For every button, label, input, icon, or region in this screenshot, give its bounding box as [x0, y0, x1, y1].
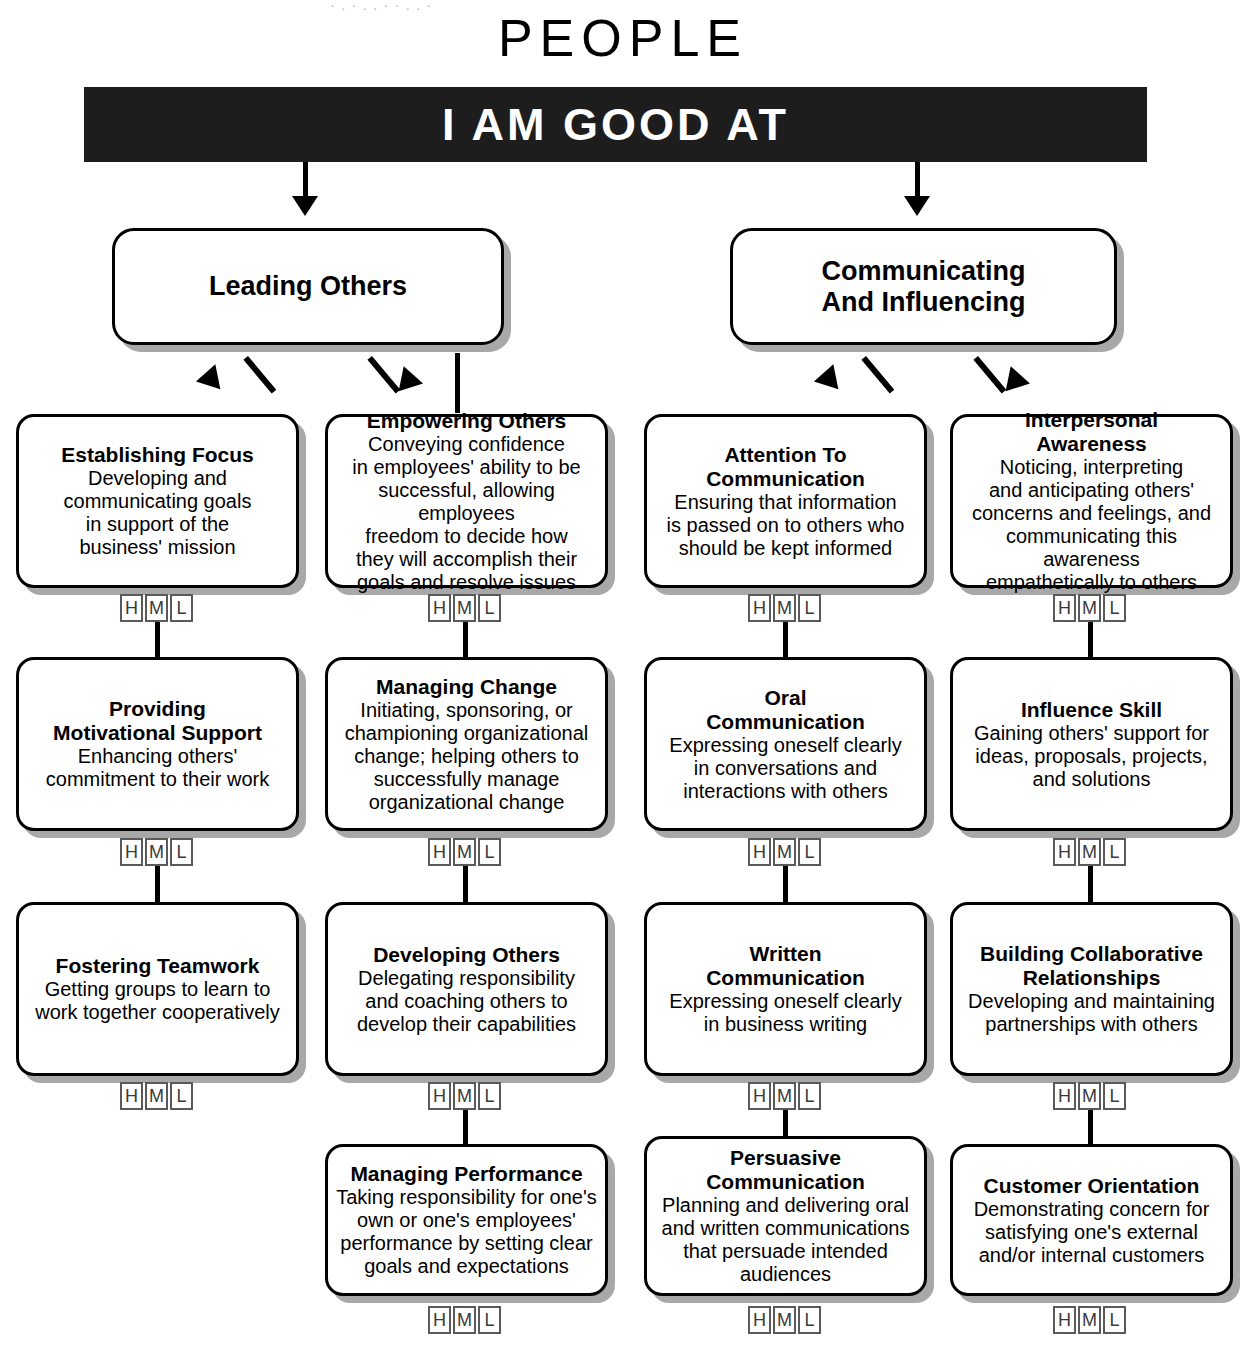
rating-medium[interactable]: M — [1078, 594, 1101, 622]
rating-high[interactable]: H — [428, 594, 451, 622]
rating-empowering-others[interactable]: H M L — [428, 594, 501, 622]
branch-box-leading-others[interactable]: Leading Others — [112, 228, 504, 345]
node-attention-to-communication[interactable]: Attention ToCommunication Ensuring that … — [644, 414, 927, 588]
node-title: ProvidingMotivational Support — [53, 697, 262, 745]
node-empowering-others[interactable]: Empowering Others Conveying confidencein… — [325, 414, 608, 588]
rating-high[interactable]: H — [1053, 1082, 1076, 1110]
rating-high[interactable]: H — [1053, 838, 1076, 866]
rating-low[interactable]: L — [798, 838, 821, 866]
rating-high[interactable]: H — [428, 838, 451, 866]
rating-medium[interactable]: M — [453, 1082, 476, 1110]
connector-c2-r1-to-r2 — [463, 622, 468, 660]
rating-high[interactable]: H — [120, 594, 143, 622]
arrowhead-communicating-to-col3 — [814, 364, 848, 398]
node-customer-orientation[interactable]: Customer Orientation Demonstrating conce… — [950, 1144, 1233, 1296]
rating-oral-communication[interactable]: H M L — [748, 838, 821, 866]
rating-medium[interactable]: M — [773, 1306, 796, 1334]
node-oral-communication[interactable]: OralCommunication Expressing oneself cle… — [644, 657, 927, 831]
rating-building-collaborative-relationships[interactable]: H M L — [1053, 1082, 1126, 1110]
node-description: Expressing oneself clearlyin conversatio… — [669, 734, 901, 803]
connector-c3-r1-to-r2 — [783, 622, 788, 660]
rating-interpersonal-awareness[interactable]: H M L — [1053, 594, 1126, 622]
rating-high[interactable]: H — [120, 1082, 143, 1110]
rating-high[interactable]: H — [428, 1082, 451, 1110]
rating-medium[interactable]: M — [145, 838, 168, 866]
arrowhead-banner-to-communicating — [904, 196, 930, 216]
rating-low[interactable]: L — [170, 838, 193, 866]
rating-low[interactable]: L — [170, 1082, 193, 1110]
connector-c1-r2-to-r3 — [155, 866, 160, 904]
rating-written-communication[interactable]: H M L — [748, 1082, 821, 1110]
rating-low[interactable]: L — [170, 594, 193, 622]
node-title: Attention ToCommunication — [706, 443, 865, 491]
rating-low[interactable]: L — [798, 594, 821, 622]
node-establishing-focus[interactable]: Establishing Focus Developing andcommuni… — [16, 414, 299, 588]
rating-medium[interactable]: M — [773, 594, 796, 622]
rating-medium[interactable]: M — [453, 1306, 476, 1334]
rating-managing-change[interactable]: H M L — [428, 838, 501, 866]
rating-low[interactable]: L — [1103, 1082, 1126, 1110]
arrowhead-banner-to-leading-others — [292, 196, 318, 216]
rating-low[interactable]: L — [478, 1306, 501, 1334]
node-description: Gaining others' support forideas, propos… — [974, 722, 1209, 791]
rating-high[interactable]: H — [748, 1306, 771, 1334]
rating-medium[interactable]: M — [1078, 838, 1101, 866]
node-fostering-teamwork[interactable]: Fostering Teamwork Getting groups to lea… — [16, 902, 299, 1076]
rating-medium[interactable]: M — [773, 1082, 796, 1110]
rating-high[interactable]: H — [120, 838, 143, 866]
node-title: Influence Skill — [1021, 698, 1162, 722]
rating-medium[interactable]: M — [453, 594, 476, 622]
node-description: Planning and delivering oraland written … — [662, 1194, 910, 1286]
page-title: PEOPLE — [0, 8, 1246, 68]
connector-communicating-to-col3 — [861, 356, 894, 394]
node-managing-change[interactable]: Managing Change Initiating, sponsoring, … — [325, 657, 608, 831]
rating-developing-others[interactable]: H M L — [428, 1082, 501, 1110]
node-managing-performance[interactable]: Managing Performance Taking responsibili… — [325, 1144, 608, 1296]
connector-leading-to-col1 — [243, 356, 276, 394]
rating-low[interactable]: L — [478, 594, 501, 622]
rating-providing-motivational-support[interactable]: H M L — [120, 838, 193, 866]
rating-low[interactable]: L — [1103, 594, 1126, 622]
rating-establishing-focus[interactable]: H M L — [120, 594, 193, 622]
node-interpersonal-awareness[interactable]: InterpersonalAwareness Noticing, interpr… — [950, 414, 1233, 588]
rating-attention-to-communication[interactable]: H M L — [748, 594, 821, 622]
rating-high[interactable]: H — [748, 1082, 771, 1110]
rating-low[interactable]: L — [798, 1082, 821, 1110]
rating-high[interactable]: H — [428, 1306, 451, 1334]
node-description: Taking responsibility for one'sown or on… — [336, 1186, 597, 1278]
node-persuasive-communication[interactable]: PersuasiveCommunication Planning and del… — [644, 1136, 927, 1296]
rating-low[interactable]: L — [478, 838, 501, 866]
node-building-collaborative-relationships[interactable]: Building CollaborativeRelationships Deve… — [950, 902, 1233, 1076]
rating-influence-skill[interactable]: H M L — [1053, 838, 1126, 866]
rating-low[interactable]: L — [1103, 838, 1126, 866]
rating-managing-performance[interactable]: H M L — [428, 1306, 501, 1334]
branch-title: Leading Others — [209, 271, 407, 302]
rating-fostering-teamwork[interactable]: H M L — [120, 1082, 193, 1110]
rating-persuasive-communication[interactable]: H M L — [748, 1306, 821, 1334]
node-description: Ensuring that informationis passed on to… — [667, 491, 905, 560]
rating-medium[interactable]: M — [1078, 1082, 1101, 1110]
node-written-communication[interactable]: WrittenCommunication Expressing oneself … — [644, 902, 927, 1076]
node-description: Conveying confidencein employees' abilit… — [334, 433, 599, 594]
rating-high[interactable]: H — [748, 594, 771, 622]
branch-box-communicating-and-influencing[interactable]: CommunicatingAnd Influencing — [730, 228, 1117, 345]
rating-medium[interactable]: M — [453, 838, 476, 866]
node-providing-motivational-support[interactable]: ProvidingMotivational Support Enhancing … — [16, 657, 299, 831]
rating-low[interactable]: L — [1103, 1306, 1126, 1334]
rating-high[interactable]: H — [748, 838, 771, 866]
rating-medium[interactable]: M — [773, 838, 796, 866]
node-developing-others[interactable]: Developing Others Delegating responsibil… — [325, 902, 608, 1076]
node-description: Initiating, sponsoring, orchampioning or… — [345, 699, 589, 814]
rating-medium[interactable]: M — [145, 594, 168, 622]
rating-low[interactable]: L — [478, 1082, 501, 1110]
rating-high[interactable]: H — [1053, 594, 1076, 622]
node-title: WrittenCommunication — [706, 942, 865, 990]
connector-c2-r2-to-r3 — [463, 866, 468, 904]
rating-high[interactable]: H — [1053, 1306, 1076, 1334]
node-title: Developing Others — [373, 943, 560, 967]
node-influence-skill[interactable]: Influence Skill Gaining others' support … — [950, 657, 1233, 831]
rating-low[interactable]: L — [798, 1306, 821, 1334]
rating-medium[interactable]: M — [145, 1082, 168, 1110]
rating-medium[interactable]: M — [1078, 1306, 1101, 1334]
rating-customer-orientation[interactable]: H M L — [1053, 1306, 1126, 1334]
